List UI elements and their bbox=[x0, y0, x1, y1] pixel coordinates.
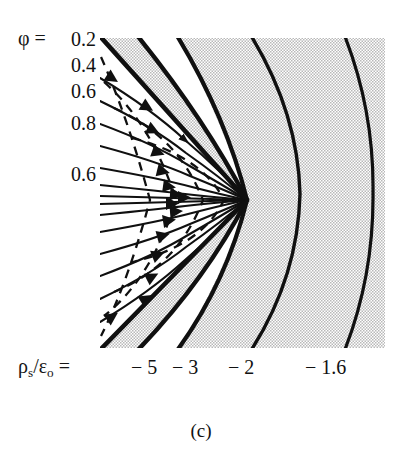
rho-glyph: ρ bbox=[18, 355, 28, 377]
potential-value-3: 0.8 bbox=[0, 112, 96, 135]
charge-density-symbol-label: ρs/εo = bbox=[18, 356, 70, 379]
figure-caption: (c) bbox=[0, 420, 402, 442]
epsilon-subscript-o: o bbox=[47, 365, 54, 380]
potential-value-4: 0.6 bbox=[0, 163, 96, 186]
plot-content bbox=[98, 34, 385, 352]
equals-glyph: = bbox=[54, 355, 70, 377]
potential-value-1: 0.4 bbox=[0, 54, 96, 77]
potential-value-0: 0.2 bbox=[0, 28, 96, 51]
field-map-figure: φ = 0.2 0.4 0.6 0.8 0.6 ρs/εo = − 5 − 3 … bbox=[0, 0, 402, 461]
epsilon-glyph: ε bbox=[39, 355, 47, 377]
charge-density-value-0: − 5 bbox=[131, 356, 157, 379]
charge-density-value-1: − 3 bbox=[172, 356, 198, 379]
potential-value-2: 0.6 bbox=[0, 80, 96, 103]
charge-density-value-3: − 1.6 bbox=[305, 356, 346, 379]
charge-density-value-2: − 2 bbox=[228, 356, 254, 379]
